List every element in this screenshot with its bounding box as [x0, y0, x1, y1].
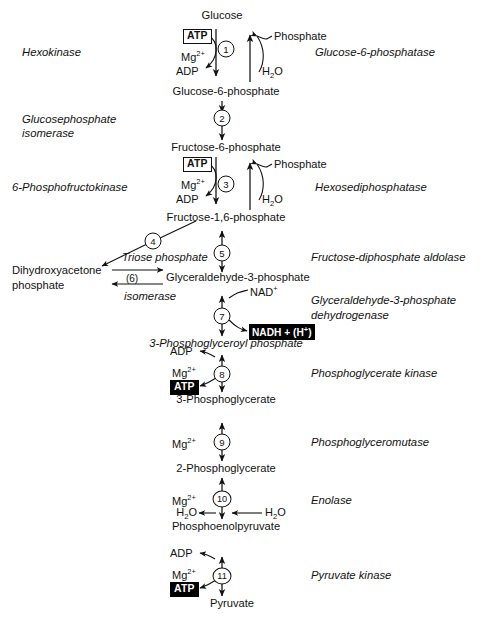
step-number-10: 10 [213, 491, 232, 508]
step-number-2: 2 [214, 110, 231, 127]
mg-label: Mg [172, 569, 187, 581]
metabolite-3-phosphoglycerate: 3-Phosphoglycerate [176, 394, 276, 405]
cofactor-adp-step3: ADP [176, 194, 199, 205]
nadh-tail: ) [308, 327, 311, 338]
cofactor-water-step1: H2O [262, 66, 283, 80]
metabolite-fructose-6-phosphate: Fructose-6-phosphate [171, 142, 280, 153]
metabolite-glucose: Glucose [201, 10, 242, 21]
atp-box-step8: ATP [170, 380, 199, 395]
mg-label: Mg [181, 179, 196, 191]
cofactor-nad-step7: NAD+ [250, 285, 278, 298]
step-number-6: (6) [126, 273, 138, 284]
atp-box-step1: ATP [183, 29, 212, 44]
enzyme-6-phosphofructokinase: 6-Phosphofructokinase [12, 182, 128, 193]
step-number-5: 5 [214, 245, 231, 262]
enzyme-phosphoglyceromutase: Phosphoglyceromutase [311, 437, 429, 448]
water-h: H [176, 506, 184, 518]
enzyme-pyruvate-kinase: Pyruvate kinase [311, 570, 391, 581]
cofactor-mg-step9: Mg2+ [172, 437, 196, 450]
enzyme-phosphoglycerate-kinase: Phosphoglycerate kinase [311, 368, 437, 379]
step-number-3: 3 [218, 176, 235, 193]
mg-charge: 2+ [196, 49, 204, 58]
step-number-1: 1 [218, 41, 235, 58]
metabolite-glyceraldehyde-3-phosphate: Glyceraldehyde-3-phosphate [166, 272, 310, 283]
metabolite-fructose-1-6-phosphate: Fructose-1,6-phosphate [167, 212, 286, 223]
cofactor-adp-step8: ADP [170, 346, 193, 357]
mg-charge: 2+ [187, 567, 195, 576]
metabolite-triose-phosphate: Triose phosphate [122, 252, 208, 263]
mg-charge: 2+ [187, 436, 195, 445]
metabolite-dhap-line1: Dihydroxyacetone [12, 265, 102, 276]
enzyme-glucosephosphate-isomerase-line2: isomerase [22, 128, 74, 139]
nad-charge: + [273, 284, 277, 293]
cofactor-water-step3: H2O [262, 194, 283, 208]
mg-label: Mg [181, 51, 196, 63]
enzyme-glucosephosphate-isomerase-line1: Glucosephosphate [22, 114, 116, 125]
cofactor-water-in-step10: H2O [265, 507, 286, 521]
step-number-11: 11 [213, 568, 232, 585]
mg-label: Mg [172, 495, 187, 507]
cofactor-mg-step10: Mg2+ [172, 494, 196, 507]
mg-label: Mg [172, 367, 187, 379]
water-h: H [262, 193, 270, 205]
cofactor-mg-step1: Mg2+ [181, 50, 205, 63]
step-number-7: 7 [214, 308, 231, 325]
cofactor-mg-step8: Mg2+ [172, 366, 196, 379]
enzyme-glucose-6-phosphatase: Glucose-6-phosphatase [315, 47, 435, 58]
cofactor-adp-step1: ADP [176, 66, 199, 77]
metabolite-phosphoenolpyruvate: Phosphoenolpyruvate [172, 521, 280, 532]
glycolysis-pathway-diagram: 1 2 3 4 5 (6) 7 8 9 10 11 Glucose Glucos… [0, 0, 482, 624]
metabolite-dhap-line2: phosphate [12, 280, 64, 291]
water-o: O [274, 65, 283, 77]
water-h: H [262, 65, 270, 77]
water-o: O [188, 506, 197, 518]
metabolite-glucose-6-phosphate: Glucose-6-phosphate [173, 86, 280, 97]
nad-label: NAD [250, 286, 273, 298]
mg-charge: 2+ [196, 177, 204, 186]
step-number-4: 4 [145, 233, 162, 250]
nadh-box-step7: NADH + (H+) [249, 324, 315, 340]
enzyme-enolase: Enolase [311, 495, 352, 506]
mg-charge: 2+ [187, 365, 195, 374]
water-h: H [265, 506, 273, 518]
cofactor-mg-step11: Mg2+ [172, 568, 196, 581]
enzyme-hexosediphosphatase: Hexosediphosphatase [315, 182, 427, 193]
metabolite-2-phosphoglycerate: 2-Phosphoglycerate [176, 463, 276, 474]
step-number-8: 8 [214, 366, 231, 383]
enzyme-triose-phosphate-isomerase: isomerase [124, 291, 176, 302]
water-o: O [277, 506, 286, 518]
enzyme-gapdh-line2: dehydrogenase [311, 310, 389, 321]
water-o: O [274, 193, 283, 205]
atp-box-step11: ATP [170, 582, 199, 597]
metabolite-pyruvate: Pyruvate [210, 598, 254, 609]
atp-box-step3: ATP [183, 157, 212, 172]
mg-charge: 2+ [187, 493, 195, 502]
cofactor-phosphate-step1: Phosphate [274, 31, 327, 42]
cofactor-water-out-step10: H2O [176, 507, 197, 521]
step-number-9: 9 [214, 434, 231, 451]
enzyme-fructose-diphosphate-aldolase: Fructose-diphosphate aldolase [311, 252, 466, 263]
cofactor-adp-step11: ADP [170, 548, 193, 559]
enzyme-gapdh-line1: Glyceraldehyde-3-phosphate [311, 295, 456, 306]
mg-label: Mg [172, 438, 187, 450]
cofactor-phosphate-step3: Phosphate [274, 159, 327, 170]
cofactor-mg-step3: Mg2+ [181, 178, 205, 191]
enzyme-hexokinase: Hexokinase [22, 47, 81, 58]
nadh-label: NADH + (H [252, 327, 304, 338]
